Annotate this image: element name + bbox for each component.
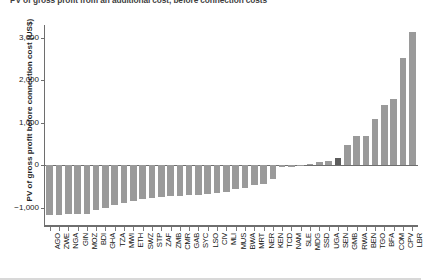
- x-axis-label-syc: SYC: [201, 233, 210, 248]
- x-axis-label-zaf: ZAF: [164, 233, 173, 247]
- bar-nam: [288, 165, 295, 166]
- x-axis-label-swz: SWZ: [146, 233, 155, 249]
- plot-area: −1,00001,0002,0003,000: [44, 25, 418, 225]
- x-axis-tick: [59, 227, 60, 231]
- bar-gin: [74, 165, 81, 214]
- x-axis-label-gab: GAB: [192, 233, 201, 248]
- bar-bwa: [242, 165, 249, 187]
- x-axis-label-mrt: MRT: [257, 233, 266, 249]
- x-axis-label-cmr: CMR: [183, 233, 192, 250]
- x-axis-label-lso: LSO: [211, 233, 220, 248]
- y-axis-tick: [41, 208, 44, 209]
- x-axis-tick: [347, 227, 348, 231]
- x-axis-tick: [171, 227, 172, 231]
- x-axis-tick: [143, 227, 144, 231]
- x-axis-tick: [310, 227, 311, 231]
- bar-ago: [46, 165, 53, 214]
- x-axis-tick: [301, 227, 302, 231]
- x-axis-tick: [366, 227, 367, 231]
- bar-ken: [270, 165, 277, 178]
- bar-bfa: [381, 105, 388, 165]
- bar-mdg: [307, 164, 314, 165]
- bar-cmr: [177, 165, 184, 195]
- x-axis-tick: [226, 227, 227, 231]
- bar-civ: [214, 165, 221, 193]
- x-axis-tick: [78, 227, 79, 231]
- x-axis-tick: [68, 227, 69, 231]
- x-axis-tick: [403, 227, 404, 231]
- bar-gab: [186, 165, 193, 195]
- x-axis-tick: [50, 227, 51, 231]
- x-axis-tick: [87, 227, 88, 231]
- x-axis-label-bdi: BDI: [99, 233, 108, 245]
- x-axis-tick: [357, 227, 358, 231]
- x-axis-label-gmb: GMB: [350, 233, 359, 250]
- x-axis-tick: [412, 227, 413, 231]
- bar-tza: [111, 165, 118, 205]
- bar-mli: [223, 165, 230, 191]
- bar-gmb: [344, 145, 351, 165]
- x-axis-label-mwi: MWI: [127, 233, 136, 248]
- bar-syc: [195, 165, 202, 194]
- x-axis-label-eth: ETH: [136, 233, 145, 248]
- x-axis-label-mli: MLI: [229, 233, 238, 245]
- x-axis-label-uga: UGA: [332, 233, 341, 249]
- x-axis-label-moz: MOZ: [90, 233, 99, 249]
- bar-cpv: [400, 58, 407, 165]
- x-axis-tick: [198, 227, 199, 231]
- x-axis-tick: [384, 227, 385, 231]
- x-axis-label-cpv: CPV: [406, 233, 415, 248]
- x-axis-label-gha: GHA: [108, 233, 117, 249]
- x-axis-label-ken: KEN: [276, 233, 285, 248]
- x-axis-label-stp: STP: [155, 233, 164, 247]
- x-axis-label-tza: TZA: [118, 233, 127, 247]
- bar-zmb: [167, 165, 174, 196]
- x-axis-tick: [180, 227, 181, 231]
- x-axis-tick: [133, 227, 134, 231]
- bar-ner: [260, 165, 267, 184]
- x-axis-line: [44, 225, 418, 227]
- x-axis-tick: [115, 227, 116, 231]
- x-axis-tick: [319, 227, 320, 231]
- y-axis-tick-label: 0: [35, 160, 39, 169]
- bar-gha: [102, 165, 109, 208]
- bar-ssd: [316, 162, 323, 165]
- x-axis-tick: [217, 227, 218, 231]
- bar-rwa: [353, 136, 360, 165]
- x-axis-label-lbr: LBR: [415, 233, 424, 247]
- bar-zaf: [158, 165, 165, 197]
- bar-bdi: [93, 165, 100, 210]
- x-axis-tick: [124, 227, 125, 231]
- bar-lbr: [409, 32, 416, 165]
- bar-sle: [297, 165, 304, 166]
- x-axis-tick: [96, 227, 97, 231]
- x-axis-label-bwa: BWA: [248, 233, 257, 249]
- x-axis-tick: [254, 227, 255, 231]
- bar-swz: [139, 165, 146, 199]
- x-axis-tick: [264, 227, 265, 231]
- x-axis-tick: [375, 227, 376, 231]
- x-axis-tick: [236, 227, 237, 231]
- x-axis-tick: [273, 227, 274, 231]
- x-axis-tick: [394, 227, 395, 231]
- x-axis-tick: [282, 227, 283, 231]
- y-axis-tick-label: 1,000: [19, 118, 39, 127]
- x-axis-label-ssd: SSD: [322, 233, 331, 248]
- x-axis-label-tcd: TCD: [285, 233, 294, 248]
- x-axis-tick: [329, 227, 330, 231]
- x-axis-label-nam: NAM: [294, 233, 303, 249]
- x-axis-label-nga: NGA: [71, 233, 80, 249]
- bar-series: [45, 25, 418, 225]
- chart-title: PV of gross profit from an additional co…: [10, 0, 421, 6]
- x-axis-label-mdg: MDG: [313, 233, 322, 250]
- y-axis-title: PV of gross profit before connection cos…: [25, 32, 34, 202]
- bar-moz: [84, 165, 91, 214]
- y-axis-tick: [41, 123, 44, 124]
- bar-ben: [363, 136, 370, 166]
- y-axis-tick-label: −1,000: [14, 203, 39, 212]
- x-axis-label-tgo: TGO: [378, 233, 387, 249]
- x-axis-label-ben: BEN: [369, 233, 378, 248]
- x-axis-label-rwa: RWA: [360, 233, 369, 250]
- x-axis-label-sle: SLE: [304, 233, 313, 247]
- bar-zwe: [56, 165, 63, 214]
